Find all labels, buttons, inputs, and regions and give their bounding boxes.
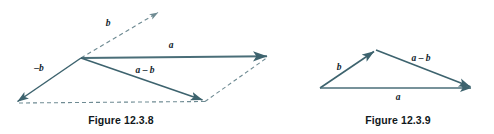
vector-a	[81, 56, 267, 58]
label-b-figure-2: b	[337, 62, 342, 72]
vector-b-figure-2	[320, 52, 374, 89]
vector-figures-svg: b –b a a – b Figure 12.3.8 b a – b a Fig…	[0, 0, 494, 134]
caption-figure-12-3-9: Figure 12.3.9	[365, 114, 431, 126]
figure-12-3-8-group: b –b a a – b Figure 12.3.8	[18, 13, 269, 127]
vector-minus-b	[18, 58, 82, 102]
label-a-minus-b-figure-2: a – b	[412, 53, 431, 63]
parallelogram-right-side-dashed	[205, 57, 268, 102]
label-a-figure-2: a	[396, 92, 401, 102]
figure-12-3-9-group: b a – b a Figure 12.3.9	[320, 50, 471, 126]
label-a-figure-1: a	[169, 40, 174, 50]
parallelogram-base-dashed	[18, 102, 206, 104]
label-b-figure-1: b	[106, 18, 111, 28]
label-minus-b-figure-1: –b	[33, 63, 44, 73]
figure-panel: b –b a a – b Figure 12.3.8 b a – b a Fig…	[0, 0, 494, 134]
label-a-minus-b-figure-1: a – b	[136, 65, 155, 75]
caption-figure-12-3-8: Figure 12.3.8	[88, 114, 154, 126]
vector-b-dashed	[81, 13, 158, 59]
